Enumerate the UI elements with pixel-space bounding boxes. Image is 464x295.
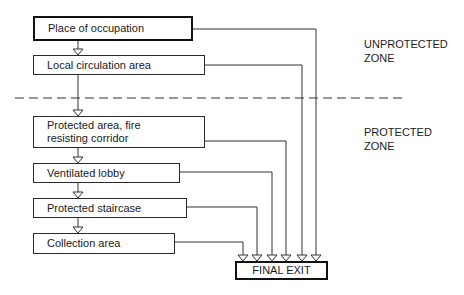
route-protected-area xyxy=(204,141,286,255)
zone-label-line2: ZONE xyxy=(364,51,448,65)
zone-label-line1: UNPROTECTED xyxy=(364,37,448,51)
box-label-line1: Protected area, fire xyxy=(47,119,141,132)
protected-zone-label: PROTECTED ZONE xyxy=(364,125,432,153)
route-occupation xyxy=(192,29,316,255)
box-collection-area: Collection area xyxy=(33,233,175,254)
box-label: Ventilated lobby xyxy=(47,167,125,180)
box-protected-area: Protected area, fire resisting corridor xyxy=(33,116,205,148)
box-label: Protected staircase xyxy=(47,202,141,215)
box-label-line2: resisting corridor xyxy=(47,132,128,145)
box-label: Local circulation area xyxy=(47,59,151,72)
route-collection-area xyxy=(174,242,243,255)
final-exit-label: FINAL EXIT xyxy=(252,264,310,277)
zone-label-line1: PROTECTED xyxy=(364,125,432,139)
box-label: Place of occupation xyxy=(48,22,144,35)
box-protected-staircase: Protected staircase xyxy=(33,198,187,218)
box-local-circulation-area: Local circulation area xyxy=(33,55,205,75)
box-label: Collection area xyxy=(47,237,120,250)
route-local-circulation xyxy=(204,65,302,255)
box-final-exit: FINAL EXIT xyxy=(235,261,328,280)
route-ventilated-lobby xyxy=(179,172,272,255)
zone-label-line2: ZONE xyxy=(364,139,432,153)
box-place-of-occupation: Place of occupation xyxy=(33,16,193,41)
unprotected-zone-label: UNPROTECTED ZONE xyxy=(364,37,448,65)
box-ventilated-lobby: Ventilated lobby xyxy=(33,163,180,183)
route-protected-staircase xyxy=(186,207,257,255)
